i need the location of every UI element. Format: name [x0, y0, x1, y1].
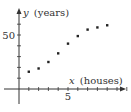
data-points — [28, 24, 109, 73]
x-axis-arrow-icon — [120, 87, 126, 92]
x-axis-label: x (houses) — [69, 75, 123, 86]
y-axis-arrow-icon — [17, 8, 22, 14]
data-point — [28, 71, 30, 73]
data-point — [37, 67, 39, 69]
x-axis-unit: (houses) — [80, 75, 123, 86]
data-point — [57, 52, 59, 54]
data-point — [106, 24, 108, 26]
scatter-chart: 5 50 y (years) x (houses) — [0, 0, 131, 112]
y-axis-var: y — [22, 7, 29, 18]
data-point — [47, 61, 49, 63]
y-tick-label: 50 — [2, 30, 15, 41]
y-ticks: 50 — [2, 24, 21, 78]
data-point — [86, 28, 88, 30]
x-tick-label: 5 — [65, 91, 71, 102]
data-point — [77, 35, 79, 37]
x-axis-var: x — [69, 75, 75, 86]
y-axis-label: y (years) — [22, 7, 69, 18]
data-point — [96, 26, 98, 28]
data-point — [67, 42, 69, 44]
y-axis-unit: (years) — [34, 7, 69, 18]
